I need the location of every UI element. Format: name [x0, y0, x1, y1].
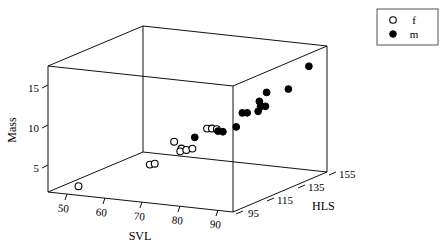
data-point-f	[151, 160, 158, 167]
z-tick-115	[267, 198, 274, 201]
y-tick-label-10: 10	[28, 122, 40, 134]
box-edge-top-back-left	[48, 26, 143, 66]
x-tick-90	[216, 210, 218, 216]
z-tick-155	[329, 172, 336, 175]
x-tick-label-50: 50	[57, 201, 70, 214]
x-tick-label-70: 70	[133, 209, 146, 222]
legend: f m	[377, 9, 438, 45]
box-edge-bottom-back-left	[48, 152, 143, 192]
box-edge-bottom-back-right	[143, 152, 327, 172]
plot-box-frame	[48, 26, 327, 212]
x-tick-50	[65, 194, 67, 200]
data-point-f	[171, 138, 178, 145]
chart-canvas: 15 10 5 Mass 50 60 70 80 90 SVL 95	[0, 0, 446, 250]
data-point-f	[189, 145, 196, 152]
z-tick-label-115: 115	[277, 194, 294, 206]
data-point-m	[220, 128, 227, 135]
y-tick-label-5: 5	[34, 162, 40, 174]
box-edge-top-front-right	[233, 46, 327, 86]
data-point-m	[191, 134, 198, 141]
data-point-m	[256, 98, 263, 105]
y-tick-15	[42, 85, 48, 88]
legend-marker-f	[390, 17, 397, 24]
y-tick-5	[42, 165, 48, 168]
legend-label-m: m	[410, 28, 419, 40]
z-tick-label-155: 155	[339, 168, 356, 180]
x-tick-60	[103, 198, 105, 204]
legend-label-f: f	[412, 14, 416, 26]
z-tick-95	[236, 211, 243, 214]
box-edge-top-front-left	[48, 66, 233, 86]
x-axis-title: SVL	[129, 229, 152, 243]
data-point-m	[262, 103, 269, 110]
box-edge-top-back-right	[143, 26, 327, 46]
z-tick-135	[298, 185, 305, 188]
x-tick-70	[140, 202, 142, 208]
x-axis-svl: 50 60 70 80 90 SVL	[57, 194, 222, 243]
legend-marker-m	[390, 31, 397, 38]
y-axis-mass: 15 10 5 Mass	[5, 82, 48, 174]
data-point-m	[285, 86, 292, 93]
z-tick-label-95: 95	[248, 207, 260, 219]
x-tick-label-60: 60	[95, 205, 108, 218]
x-tick-label-80: 80	[171, 213, 184, 226]
data-point-m	[263, 89, 270, 96]
data-point-m	[305, 63, 312, 70]
data-point-m	[233, 123, 240, 130]
box-edge-bottom-front-left	[48, 192, 233, 212]
z-axis-title: HLS	[312, 199, 335, 213]
y-tick-10	[42, 125, 48, 128]
legend-box	[377, 9, 438, 45]
y-axis-title: Mass	[5, 117, 19, 143]
series-f	[75, 125, 220, 189]
z-tick-label-135: 135	[308, 181, 325, 193]
y-tick-label-15: 15	[28, 82, 40, 94]
x-tick-label-90: 90	[209, 217, 222, 230]
scatter3d-chart: 15 10 5 Mass 50 60 70 80 90 SVL 95	[0, 0, 446, 250]
data-point-f	[75, 183, 82, 190]
x-tick-80	[178, 206, 180, 212]
data-point-m	[244, 109, 251, 116]
z-axis-hls: 95 115 135 155 HLS	[236, 168, 356, 219]
